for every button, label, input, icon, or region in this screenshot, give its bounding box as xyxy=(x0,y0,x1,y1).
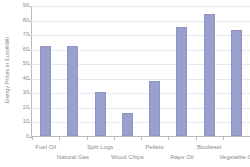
x-axis-category-label: Natural Gas xyxy=(57,154,89,160)
x-tick-mark xyxy=(59,137,60,140)
y-tick-label: 40 xyxy=(13,76,29,82)
bar-chart: Energy Prices in Euro/kWh 01020304050607… xyxy=(0,0,250,167)
bar xyxy=(122,113,133,136)
x-axis-category-label: Pellets xyxy=(146,144,164,150)
y-tick-label: 30 xyxy=(13,90,29,96)
x-tick-mark xyxy=(114,137,115,140)
x-tick-mark xyxy=(141,137,142,140)
y-axis-title-text: Energy Prices in Euro/kWh xyxy=(4,37,10,104)
y-tick-label: 70 xyxy=(13,32,29,38)
x-axis-category-label: Vegetable Oi xyxy=(219,154,250,160)
x-axis-category-label: Biodiesel xyxy=(197,144,221,150)
y-tick-label: 10 xyxy=(13,119,29,125)
x-axis-category-label: Split Logs xyxy=(87,144,113,150)
y-tick-label: 90 xyxy=(13,3,29,9)
bar xyxy=(149,81,160,136)
plot-area xyxy=(31,6,250,137)
y-tick-label: 20 xyxy=(13,105,29,111)
y-axis-ticks: 0102030405060708090 xyxy=(12,6,29,137)
x-axis-category-label: Wood Chips xyxy=(111,154,144,160)
bar xyxy=(231,30,242,136)
bar xyxy=(204,14,215,136)
x-tick-mark xyxy=(87,137,88,140)
bars-layer xyxy=(32,6,250,136)
x-tick-mark xyxy=(223,137,224,140)
bar xyxy=(67,46,78,136)
y-tick-label: 0 xyxy=(13,134,29,140)
x-tick-mark xyxy=(32,137,33,140)
x-axis-labels: Fuel OilNatural GasSplit LogsWood ChipsP… xyxy=(0,141,250,167)
y-tick-label: 80 xyxy=(13,18,29,24)
y-tick-label: 50 xyxy=(13,61,29,67)
x-axis-category-label: Fuel Oil xyxy=(35,144,56,150)
y-tick-label: 60 xyxy=(13,47,29,53)
bar xyxy=(95,92,106,136)
x-tick-mark xyxy=(196,137,197,140)
x-axis-category-label: Rape Oil xyxy=(170,154,193,160)
bar xyxy=(176,27,187,136)
bar xyxy=(40,46,51,136)
x-tick-mark xyxy=(168,137,169,140)
